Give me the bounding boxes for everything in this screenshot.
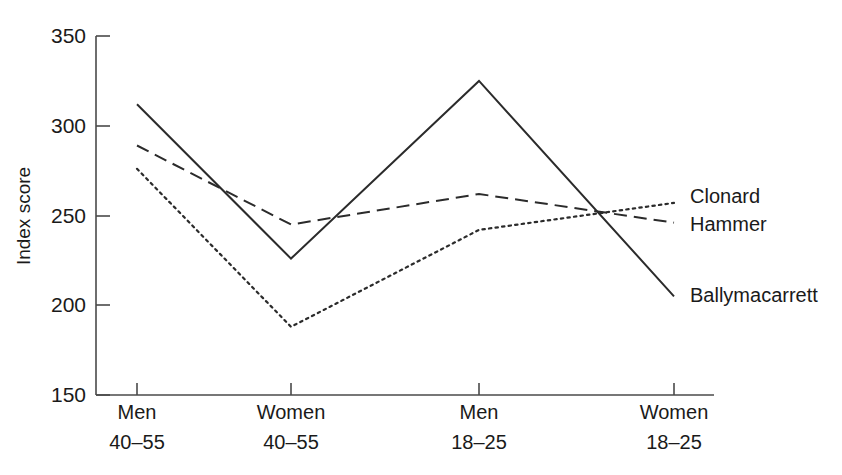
series-label-hammer: Hammer — [690, 213, 767, 235]
y-axis-tick-labels: 350 300 250 200 150 — [51, 24, 86, 406]
series-line-ballymacarrett — [137, 81, 674, 296]
y-axis-ticks — [96, 36, 110, 395]
series-label-clonard: Clonard — [690, 185, 760, 207]
x-tick-label-2-top: Women — [257, 401, 326, 423]
x-tick-label-4-top: Women — [640, 401, 709, 423]
x-axis-ticks — [137, 383, 674, 395]
y-axis-title: Index score — [13, 167, 34, 265]
chart-canvas: 350 300 250 200 150 Index score Men 40–5… — [0, 0, 842, 475]
x-tick-label-3-top: Men — [460, 401, 499, 423]
y-tick-label-250: 250 — [51, 204, 86, 227]
y-tick-label-350: 350 — [51, 24, 86, 47]
x-axis-tick-labels: Men 40–55 Women 40–55 Men 18–25 Women 18… — [109, 401, 708, 453]
x-tick-label-1-top: Men — [118, 401, 157, 423]
y-tick-label-300: 300 — [51, 114, 86, 137]
x-tick-label-4-bottom: 18–25 — [646, 431, 702, 453]
x-tick-label-2-bottom: 40–55 — [263, 431, 319, 453]
series-line-clonard — [137, 169, 674, 327]
series-label-ballymacarrett: Ballymacarrett — [690, 284, 818, 306]
line-chart: 350 300 250 200 150 Index score Men 40–5… — [0, 0, 842, 475]
y-tick-label-200: 200 — [51, 293, 86, 316]
x-tick-label-1-bottom: 40–55 — [109, 431, 165, 453]
x-tick-label-3-bottom: 18–25 — [451, 431, 507, 453]
series-labels-group: Clonard Hammer Ballymacarrett — [690, 185, 818, 306]
y-tick-label-150: 150 — [51, 383, 86, 406]
data-series-group — [137, 81, 674, 327]
